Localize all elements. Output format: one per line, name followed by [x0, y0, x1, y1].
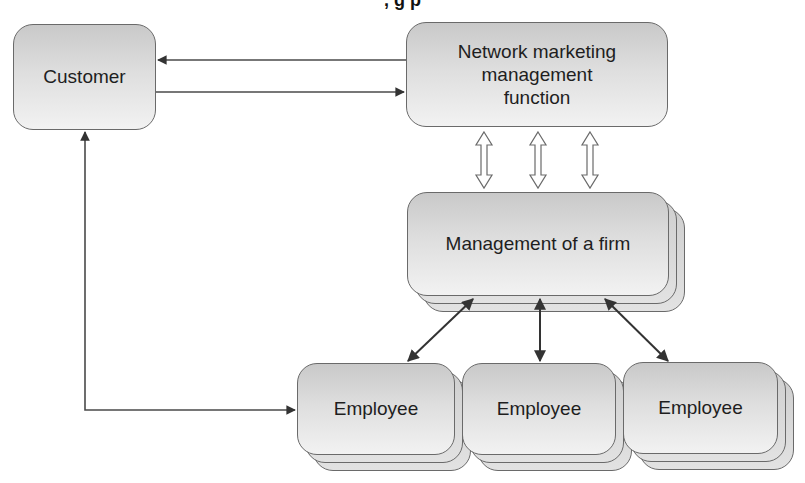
hollow-double-arrow-2	[530, 132, 546, 188]
arrow-management-employee-3	[605, 299, 668, 361]
hollow-double-arrow-1	[476, 132, 492, 188]
connectors	[0, 0, 805, 483]
arrow-customer-employee-elbow	[85, 132, 295, 410]
arrow-management-employee-1	[408, 299, 473, 361]
hollow-double-arrow-3	[582, 132, 598, 188]
